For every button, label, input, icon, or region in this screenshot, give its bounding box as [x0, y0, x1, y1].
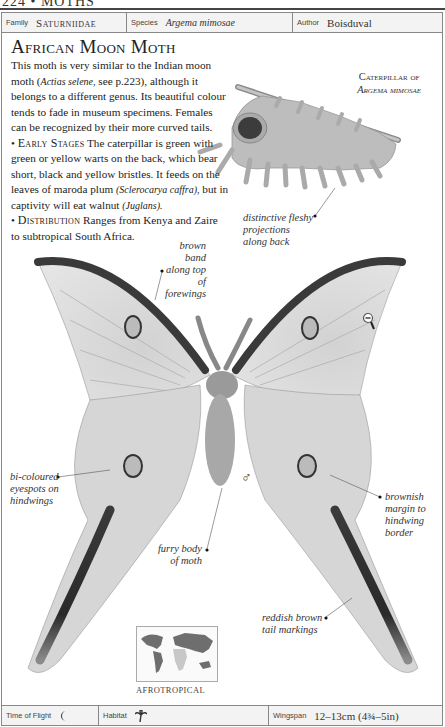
- facts-bar: Time of Flight Habitat Wingspan 12–13cm …: [1, 705, 443, 726]
- annot-line: distinctive fleshy: [243, 212, 313, 224]
- annot-line: bi-coloured: [10, 471, 59, 483]
- male-symbol: ♂: [241, 470, 252, 486]
- moon-icon: [59, 710, 69, 722]
- flight-label: Time of Flight: [6, 711, 51, 720]
- annot-line: brownish: [385, 491, 426, 503]
- annotation-fleshy-projections: distinctive fleshy projections along bac…: [243, 212, 313, 248]
- habitat-cell: Habitat: [99, 706, 269, 725]
- region-label: AFROTROPICAL: [136, 685, 205, 695]
- wingspan-cell: Wingspan 12–13cm (4¾–5in): [269, 706, 442, 725]
- early-stages-plant: (Sclerocarya caffra),: [116, 184, 200, 195]
- caterpillar-illustration: [200, 87, 398, 187]
- intro-species: Actias selene,: [41, 76, 96, 87]
- annotation-furry-body: furry body of moth: [148, 543, 202, 567]
- annot-line: tail markings: [262, 624, 322, 636]
- annotation-eyespots: bi-coloured eyespots on hindwings: [10, 471, 59, 507]
- annot-line: eyespots on: [10, 483, 59, 495]
- distribution-map: [136, 626, 218, 682]
- world-map-icon: [137, 627, 217, 681]
- annotation-tail-markings: reddish brown tail markings: [262, 612, 322, 636]
- annot-line: margin to: [385, 503, 426, 515]
- annot-line: border: [385, 527, 426, 539]
- annotation-brown-band: brown band along top of forewings: [158, 240, 206, 300]
- annot-line: furry body: [148, 543, 202, 555]
- time-of-flight-cell: Time of Flight: [2, 706, 99, 725]
- palm-tree-icon: [135, 710, 147, 722]
- entry-description: This moth is very similar to the Indian …: [11, 58, 229, 244]
- magnifier-minus-icon: [362, 312, 376, 332]
- wingspan-value: 12–13cm (4¾–5in): [314, 710, 398, 722]
- caption-line-2: Argema mimosae: [357, 84, 421, 95]
- entry-title: African Moon Moth: [11, 36, 176, 58]
- annot-line: reddish brown: [262, 612, 322, 624]
- wingspan-label: Wingspan: [273, 711, 306, 720]
- annot-line: hindwings: [10, 495, 59, 507]
- caterpillar-caption: Caterpillar of Argema mimosae: [357, 70, 421, 96]
- annot-line: forewings: [158, 288, 206, 300]
- annot-line: brown band: [158, 240, 206, 264]
- annotation-hindwing-margin: brownish margin to hindwing border: [385, 491, 426, 539]
- annot-line: along back: [243, 236, 313, 248]
- caption-line-1: Caterpillar of: [357, 70, 421, 83]
- habitat-label: Habitat: [103, 711, 127, 720]
- distribution-heading: Distribution: [18, 213, 81, 227]
- early-stages-heading: Early Stages: [18, 136, 85, 150]
- annot-line: of moth: [148, 555, 202, 567]
- annot-line: hindwing: [385, 515, 426, 527]
- annot-line: along top of: [158, 264, 206, 288]
- early-stages-walnut: (Juglans).: [122, 200, 162, 211]
- annot-line: projections: [243, 224, 313, 236]
